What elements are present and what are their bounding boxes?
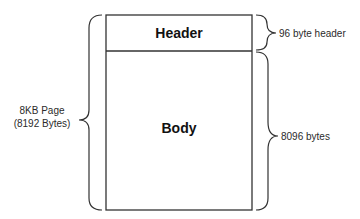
page-bytes-label: (8192 Bytes) bbox=[14, 118, 71, 129]
page-structure-diagram: Header Body 8KB Page (8192 Bytes) 96 byt… bbox=[0, 0, 360, 219]
page-outline bbox=[106, 15, 252, 210]
body-section-label: Body bbox=[162, 120, 197, 136]
header-brace bbox=[256, 15, 276, 50]
page-box bbox=[106, 15, 252, 210]
header-size-label: 96 byte header bbox=[279, 28, 346, 39]
body-size-label: 8096 bytes bbox=[281, 131, 330, 142]
page-size-label: 8KB Page bbox=[19, 105, 64, 116]
header-section-label: Header bbox=[155, 25, 203, 41]
page-brace bbox=[79, 15, 102, 210]
body-brace bbox=[256, 52, 278, 210]
